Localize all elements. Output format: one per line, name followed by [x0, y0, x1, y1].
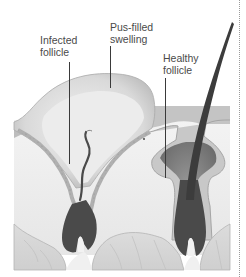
pus-swelling-leader-line	[110, 46, 111, 88]
page-margin-dotted-rule	[239, 0, 240, 277]
healthy-follicle-leader-line	[165, 78, 166, 178]
skin-cross-section-diagram: Infected follicle Pus-filled swelling He…	[0, 0, 246, 277]
label-infected-follicle: Infected follicle	[40, 34, 77, 58]
label-healthy-follicle: Healthy follicle	[163, 52, 199, 76]
label-pus-filled-swelling: Pus-filled swelling	[110, 21, 153, 45]
infected-follicle-leader-line	[69, 62, 70, 164]
